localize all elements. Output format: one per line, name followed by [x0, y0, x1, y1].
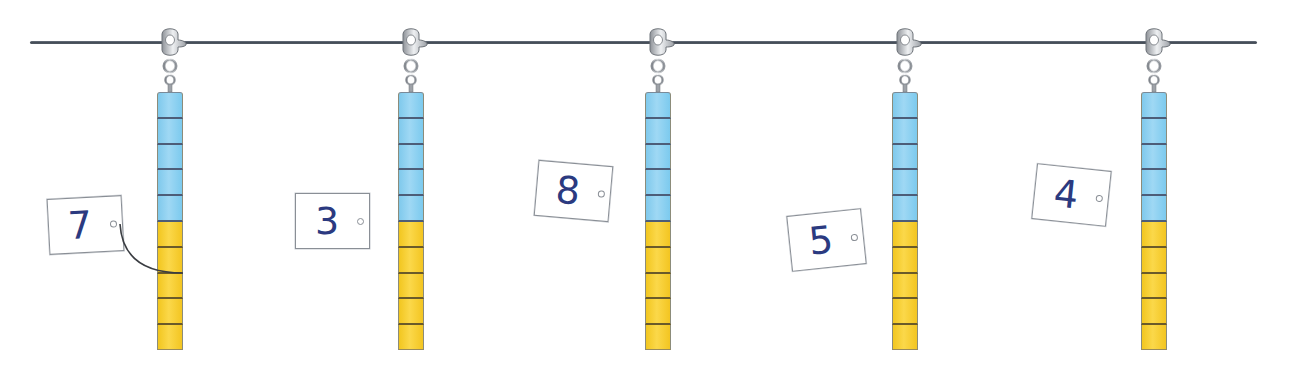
card-hole-icon	[851, 234, 859, 242]
cube-tower	[1141, 92, 1167, 350]
yellow-cube	[645, 222, 671, 248]
blue-cube	[1141, 170, 1167, 196]
cube-tower	[157, 92, 183, 350]
blue-cube	[645, 145, 671, 171]
blue-cube	[645, 119, 671, 145]
blue-cube	[157, 119, 183, 145]
cube-tower	[645, 92, 671, 350]
blue-cube	[1141, 119, 1167, 145]
yellow-cube	[892, 222, 918, 248]
clasp-icon	[598, 0, 718, 100]
cube-tower	[398, 92, 424, 350]
card-hole-icon	[110, 220, 117, 227]
card-hole-icon	[357, 218, 364, 225]
blue-cube	[157, 196, 183, 222]
clasp-icon	[1094, 0, 1214, 100]
blue-cube	[1141, 92, 1167, 119]
yellow-cube	[398, 325, 424, 350]
blue-cube	[892, 145, 918, 171]
card-number: 8	[535, 161, 602, 222]
yellow-cube	[157, 325, 183, 350]
yellow-cube	[1141, 299, 1167, 325]
blue-cube	[398, 145, 424, 171]
number-card-4[interactable]: 5	[786, 208, 866, 272]
yellow-cube	[157, 248, 183, 274]
blue-cube	[892, 170, 918, 196]
tower-unit-5	[1094, 0, 1214, 384]
blue-cube	[892, 119, 918, 145]
yellow-cube	[892, 274, 918, 300]
tower-unit-2	[351, 0, 471, 384]
card-hole-icon	[598, 190, 606, 198]
cube-tower	[892, 92, 918, 350]
card-number: 4	[1032, 164, 1100, 226]
blue-cube	[398, 196, 424, 222]
number-card-2[interactable]: 3	[295, 193, 370, 249]
blue-cube	[398, 170, 424, 196]
yellow-cube	[157, 222, 183, 248]
yellow-cube	[892, 299, 918, 325]
yellow-cube	[645, 248, 671, 274]
yellow-cube	[398, 248, 424, 274]
blue-cube	[398, 119, 424, 145]
blue-cube	[1141, 196, 1167, 222]
tower-unit-4	[845, 0, 965, 384]
yellow-cube	[645, 299, 671, 325]
clasp-icon	[845, 0, 965, 100]
yellow-cube	[157, 274, 183, 300]
tower-unit-3	[598, 0, 718, 384]
yellow-cube	[892, 248, 918, 274]
blue-cube	[157, 92, 183, 119]
clasp-icon	[351, 0, 471, 100]
card-number: 3	[296, 194, 358, 250]
blue-cube	[1141, 145, 1167, 171]
card-hole-icon	[1095, 195, 1103, 203]
card-number: 7	[48, 197, 113, 256]
cube-tower-scene: 7 3 8 5 4	[0, 0, 1304, 384]
yellow-cube	[892, 325, 918, 350]
yellow-cube	[645, 325, 671, 350]
yellow-cube	[398, 274, 424, 300]
yellow-cube	[157, 299, 183, 325]
blue-cube	[398, 92, 424, 119]
number-card-3[interactable]: 8	[534, 160, 614, 222]
yellow-cube	[398, 222, 424, 248]
yellow-cube	[1141, 222, 1167, 248]
number-card-1[interactable]: 7	[47, 195, 125, 255]
clasp-icon	[110, 0, 230, 100]
yellow-cube	[1141, 274, 1167, 300]
blue-cube	[645, 170, 671, 196]
number-card-5[interactable]: 4	[1031, 163, 1111, 227]
tower-unit-1	[110, 0, 230, 384]
blue-cube	[892, 196, 918, 222]
blue-cube	[157, 145, 183, 171]
blue-cube	[892, 92, 918, 119]
yellow-cube	[398, 299, 424, 325]
yellow-cube	[1141, 325, 1167, 350]
yellow-cube	[645, 274, 671, 300]
card-number: 5	[787, 210, 855, 272]
blue-cube	[645, 196, 671, 222]
blue-cube	[157, 170, 183, 196]
blue-cube	[645, 92, 671, 119]
yellow-cube	[1141, 248, 1167, 274]
